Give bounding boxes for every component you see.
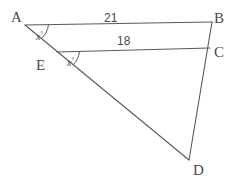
segment-ad: [25, 25, 189, 160]
vertex-label-b: B: [214, 11, 224, 26]
vertex-label-c: C: [214, 45, 224, 60]
angle-label-a: x°: [36, 29, 43, 42]
angle-e-degree-symbol: °: [71, 56, 74, 64]
angle-label-e: x°: [67, 55, 74, 68]
geometry-figure: A B C D E 21 18 x° x°: [0, 0, 244, 188]
segment-bd: [189, 22, 212, 160]
vertex-label-a: A: [11, 10, 22, 25]
side-length-ec: 18: [117, 35, 130, 47]
vertex-label-e: E: [36, 58, 45, 73]
segment-ab: [25, 22, 212, 25]
segment-ec: [57, 48, 210, 52]
side-length-ab: 21: [104, 12, 117, 24]
angle-a-degree-symbol: °: [40, 30, 43, 38]
vertex-label-d: D: [193, 163, 204, 178]
